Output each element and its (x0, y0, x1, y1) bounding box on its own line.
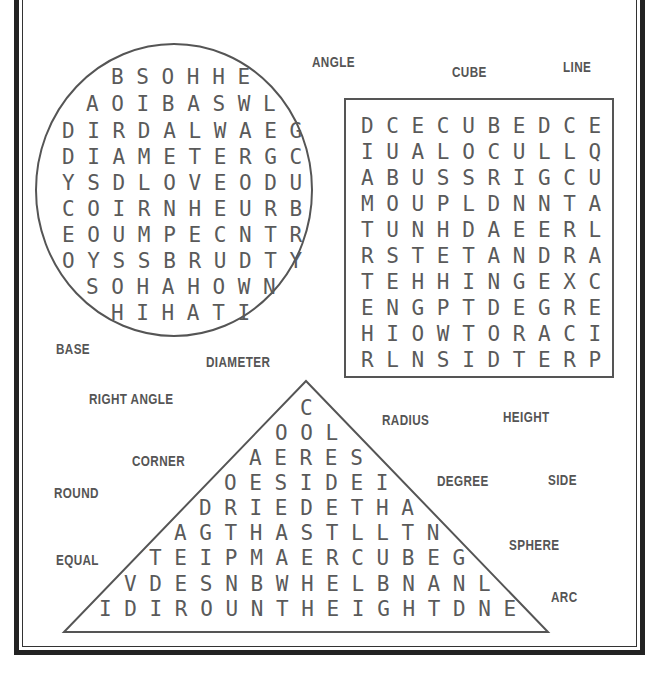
word-degree: DEGREE (437, 472, 489, 489)
circle-row: S O H A H O W N (86, 275, 276, 299)
square-row: I U A L O C U L L Q (361, 140, 601, 164)
circle-row: B S O H H E (111, 65, 250, 89)
word-cube: CUBE (452, 63, 487, 80)
square-row: H I O W T O R A C I (361, 322, 601, 346)
word-arc: ARC (551, 588, 578, 605)
word-height: HEIGHT (503, 408, 550, 425)
triangle-row: O O L (275, 421, 338, 445)
square-row: R S T E T A N D R A (361, 244, 601, 268)
circle-row: A O I B A S W L (86, 92, 276, 116)
word-sphere: SPHERE (509, 536, 559, 553)
word-base: BASE (56, 340, 90, 357)
word-diameter: DIAMETER (206, 353, 270, 370)
circle-row: H I H A T I (111, 301, 250, 325)
word-right-angle: RIGHT ANGLE (89, 390, 173, 407)
square-row: D C E C U B E D C E (361, 114, 601, 138)
circle-row: O Y S S B R U D T Y (62, 249, 302, 273)
word-equal: EQUAL (56, 551, 99, 568)
triangle-row: V D E S N B W H E L B N A N L (124, 572, 491, 596)
triangle-row: C (300, 396, 313, 420)
circle-row: Y S D L O V E O D U (62, 171, 302, 195)
triangle-row: O E S I D E I (224, 471, 388, 495)
triangle-row: I D I R O U N T H E I G H T D N E (99, 597, 516, 621)
triangle-row: A E R E S (249, 446, 363, 470)
square-row: R L N S I D T E R P (361, 348, 601, 372)
word-side: SIDE (548, 471, 577, 488)
square-row: E N G P T D E G R E (361, 296, 601, 320)
word-corner: CORNER (132, 452, 185, 469)
circle-row: D I A M E T E R G C (62, 145, 302, 169)
triangle-row: D R I E D E T H A (199, 496, 414, 520)
circle-row: C O I R N H E U R B (62, 197, 302, 221)
triangle-row: A G T H A S T L L T N (174, 521, 440, 545)
word-round: ROUND (54, 484, 99, 501)
circle-row: D I R D A L W A E G (62, 119, 302, 143)
word-line: LINE (563, 58, 591, 75)
square-row: T U N H D A E E R L (361, 218, 601, 242)
triangle-row: T E I P M A E R C U B E G (149, 546, 465, 570)
circle-row: E O U M P E C N T R (62, 223, 302, 247)
word-angle: ANGLE (312, 53, 355, 70)
square-row: A B U S S R I G C U (361, 166, 601, 190)
square-row: T E H H I N G E X C (361, 270, 601, 294)
word-radius: RADIUS (382, 411, 429, 428)
square-row: M O U P L D N N T A (361, 192, 601, 216)
